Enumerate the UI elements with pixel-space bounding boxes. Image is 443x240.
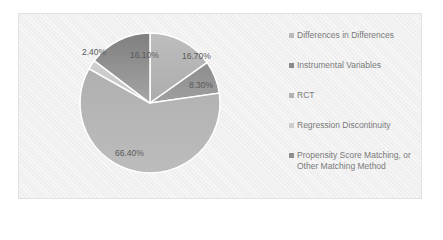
legend-swatch-icon (289, 93, 294, 98)
pie-data-label: 16.10% (130, 50, 159, 60)
legend-swatch-icon (289, 63, 294, 68)
pie-data-label: 16.70% (182, 51, 211, 61)
legend-item-did: Differences in Differences (289, 30, 419, 41)
legend-item-iv: Instrumental Variables (289, 60, 419, 71)
legend-label: Differences in Differences (297, 30, 394, 41)
legend-swatch-icon (289, 153, 294, 158)
legend-item-rct: RCT (289, 90, 419, 101)
legend-item-psm: Propensity Score Matching, or Other Matc… (289, 150, 419, 172)
legend: Differences in Differences Instrumental … (289, 30, 419, 191)
pie-data-label: 2.40% (82, 47, 107, 57)
pie-data-label: 66.40% (115, 148, 144, 158)
legend-swatch-icon (289, 33, 294, 38)
legend-label: Regression Discontinuity (297, 120, 391, 131)
legend-swatch-icon (289, 123, 294, 128)
legend-label: Propensity Score Matching, or Other Matc… (297, 150, 419, 172)
legend-label: Instrumental Variables (297, 60, 381, 71)
legend-label: RCT (297, 90, 314, 101)
pie-data-label: 8.30% (189, 80, 214, 90)
legend-item-rd: Regression Discontinuity (289, 120, 419, 131)
